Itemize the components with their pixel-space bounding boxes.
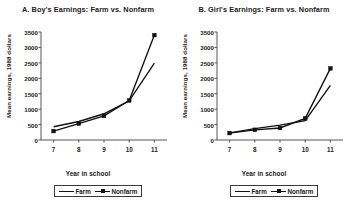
- panel-b-legend: Farm Nonfarm: [230, 185, 318, 197]
- panel-b-legend-label-farm: Farm: [252, 188, 267, 195]
- panel-a-legend-label-nonfarm: Nonfarm: [111, 188, 137, 195]
- line-square-swatch-icon: [95, 188, 110, 194]
- panel-a-x-tick-7: 7: [52, 146, 56, 153]
- panel-a-x-tick-11: 11: [151, 146, 158, 153]
- panel-a-legend-label-farm: Farm: [76, 188, 91, 195]
- panel-b-legend-item-farm: Farm: [235, 188, 267, 195]
- panel-b-x-tick-labels: 7891011: [176, 146, 352, 166]
- line-square-swatch-icon: [271, 188, 286, 194]
- panel-b-x-tick-9: 9: [278, 146, 282, 153]
- panel-a-x-tick-9: 9: [102, 146, 106, 153]
- panel-a-legend-item-nonfarm: Nonfarm: [95, 188, 137, 195]
- panel-b-title: B. Girl's Earnings: Farm vs. Nonfarm: [176, 5, 352, 14]
- line-swatch-icon: [59, 188, 74, 194]
- panel-b-legend-item-nonfarm: Nonfarm: [271, 188, 313, 195]
- panel-a-x-tick-labels: 7891011: [0, 146, 176, 166]
- line-swatch-icon: [235, 188, 250, 194]
- panel-a-plot-area: 3500300025002000150010005000 7891011: [0, 24, 176, 164]
- panel-b-x-tick-11: 11: [327, 146, 334, 153]
- panel-b-plot-area: 3500300025002000150010005000 7891011: [176, 24, 352, 164]
- chart-panel-b: B. Girl's Earnings: Farm vs. Nonfarm Mea…: [176, 0, 352, 207]
- panel-b-x-axis-label: Year in school: [176, 170, 352, 177]
- chart-panel-a: A. Boy's Earnings: Farm vs. Nonfarm Mean…: [0, 0, 176, 207]
- panel-b-x-tick-7: 7: [228, 146, 232, 153]
- panel-a-legend-item-farm: Farm: [59, 188, 91, 195]
- panel-b-x-tick-10: 10: [302, 146, 309, 153]
- panel-a-x-tick-10: 10: [126, 146, 133, 153]
- panel-b-x-tick-8: 8: [253, 146, 257, 153]
- panel-a-x-axis-label: Year in school: [0, 170, 176, 177]
- panel-a-svg: [0, 24, 176, 164]
- panel-b-svg: [176, 24, 352, 164]
- panel-a-x-tick-8: 8: [77, 146, 81, 153]
- panel-b-legend-label-nonfarm: Nonfarm: [287, 188, 313, 195]
- panel-a-title: A. Boy's Earnings: Farm vs. Nonfarm: [0, 5, 176, 14]
- panel-a-legend: Farm Nonfarm: [54, 185, 142, 197]
- figure-two-panel-line-charts: A. Boy's Earnings: Farm vs. Nonfarm Mean…: [0, 0, 353, 207]
